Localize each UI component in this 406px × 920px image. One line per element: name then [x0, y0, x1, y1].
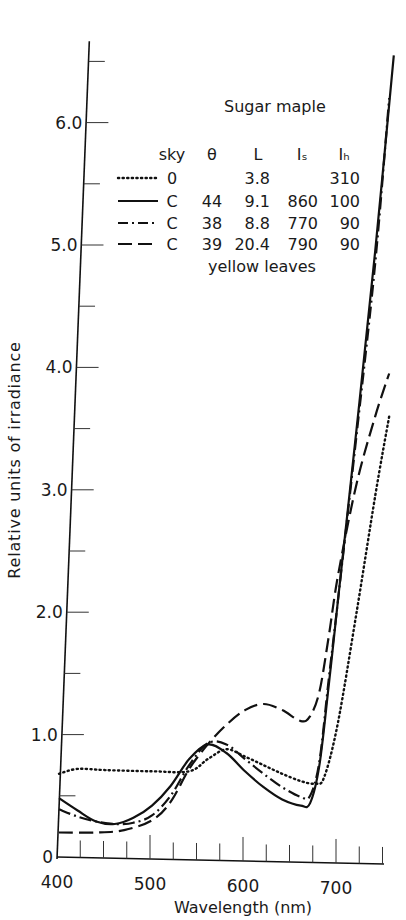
legend-cell-sky: C	[166, 192, 177, 211]
legend-footnote: yellow leaves	[208, 257, 316, 276]
legend-cell-theta: 39	[202, 235, 222, 254]
axes: 01.02.03.04.05.06.0400500600700Wavelengt…	[5, 41, 384, 917]
y-tick-label: 4.0	[46, 357, 73, 377]
y-tick-label: 0	[42, 847, 53, 867]
legend-cell-ih: 100	[329, 192, 360, 211]
y-tick-label: 6.0	[55, 113, 82, 133]
x-tick-label: 500	[134, 874, 166, 894]
legend-cell-is: 860	[287, 192, 318, 211]
x-tick-label: 400	[41, 872, 73, 892]
y-axis-title: Relative units of irradiance	[5, 341, 24, 578]
y-tick-label: 5.0	[50, 235, 77, 255]
legend-header: θ	[207, 145, 217, 164]
x-tick-label: 700	[320, 878, 352, 898]
y-axis-line	[57, 41, 89, 859]
y-tick-label: 1.0	[31, 725, 58, 745]
legend-cell-ih: 90	[340, 214, 360, 233]
legend-cell-is: 770	[287, 214, 318, 233]
legend-cell-ih: 90	[340, 235, 360, 254]
legend-cell-l: 8.8	[245, 214, 270, 233]
legend-header: sky	[159, 145, 186, 164]
legend-cell-theta: 38	[202, 214, 222, 233]
legend-cell-l: 20.4	[234, 235, 270, 254]
legend: Sugar mapleskyθLIₛIₕ03.8310C449.1860100C…	[118, 97, 360, 276]
legend-header: L	[254, 145, 263, 164]
legend-cell-l: 9.1	[245, 192, 270, 211]
curve-dashed	[59, 374, 389, 833]
legend-cell-ih: 310	[329, 169, 360, 188]
x-axis-line	[57, 857, 384, 864]
legend-title: Sugar maple	[224, 97, 326, 116]
legend-cell-sky: C	[166, 235, 177, 254]
legend-cell-l: 3.8	[245, 169, 270, 188]
x-tick-label: 600	[227, 876, 259, 896]
curve-dotted	[59, 416, 389, 784]
y-tick-label: 3.0	[41, 480, 68, 500]
legend-cell-sky: 0	[167, 169, 177, 188]
legend-cell-is: 790	[287, 235, 318, 254]
legend-cell-theta: 44	[202, 192, 222, 211]
legend-header: Iₛ	[297, 145, 308, 164]
legend-cell-sky: C	[166, 214, 177, 233]
legend-header: Iₕ	[338, 145, 349, 164]
x-axis-title: Wavelength (nm)	[174, 898, 312, 917]
y-tick-label: 2.0	[36, 602, 63, 622]
spectral-irradiance-chart: 01.02.03.04.05.06.0400500600700Wavelengt…	[0, 0, 406, 920]
